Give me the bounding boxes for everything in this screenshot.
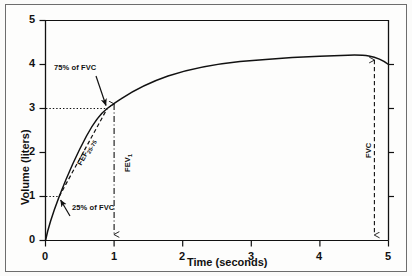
x-axis-ticks (46, 241, 389, 247)
y-axis-right-ticks (389, 65, 395, 197)
spirogram-figure: 5 4 3 2 1 0 0 1 2 3 4 5 Volume (liters) … (0, 0, 412, 276)
x-tick-label-2: 2 (179, 251, 185, 262)
callout-arrow-25pct (61, 200, 70, 216)
annotation-75-percent-fvc: 75% of FVC (54, 64, 96, 72)
spirogram-curve (46, 55, 389, 240)
annotation-25-percent-fvc: 25% of FVC (72, 204, 114, 212)
x-tick-label-5: 5 (385, 251, 391, 262)
y-axis-ticks (40, 21, 46, 241)
y-tick-label-5: 5 (29, 14, 35, 25)
x-axis-title: Time (seconds) (187, 257, 268, 268)
x-tick-label-4: 4 (316, 251, 322, 262)
annotation-fvc: FVC (365, 143, 373, 158)
y-axis-title: Volume (liters) (20, 129, 31, 205)
x-tick-label-1: 1 (111, 251, 117, 262)
y-tick-label-4: 4 (29, 58, 35, 69)
annotation-fev1: FEV1 (124, 154, 132, 172)
fev-label-text: FEV (123, 157, 132, 172)
chart-canvas (0, 0, 412, 276)
y-tick-label-0: 0 (29, 234, 35, 245)
fev-label-subscript: 1 (127, 154, 133, 157)
callout-arrow-75pct (96, 76, 106, 106)
y-tick-label-3: 3 (29, 102, 35, 113)
x-tick-label-0: 0 (42, 251, 48, 262)
